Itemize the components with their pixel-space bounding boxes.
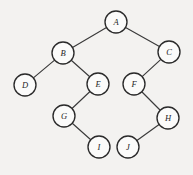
tree-node-a[interactable]: A	[105, 11, 127, 33]
tree-edge-a-b	[73, 28, 107, 48]
tree-node-j[interactable]: J	[117, 136, 139, 158]
tree-edge-e-g	[72, 92, 90, 109]
tree-edge-b-d	[33, 60, 54, 78]
tree-node-circle-i	[88, 136, 110, 158]
tree-node-b[interactable]: B	[52, 42, 74, 64]
tree-node-f[interactable]: F	[123, 73, 145, 95]
tree-node-circle-g	[53, 105, 75, 127]
tree-edge-b-e	[71, 60, 90, 76]
tree-node-c[interactable]: C	[158, 41, 180, 63]
tree-node-circle-d	[14, 74, 36, 96]
tree-node-circle-c	[158, 41, 180, 63]
tree-node-circle-j	[117, 136, 139, 158]
tree-node-g[interactable]: G	[53, 105, 75, 127]
tree-node-circle-h	[157, 107, 179, 129]
tree-diagram-canvas: ABCDEFGHIJ	[0, 0, 193, 175]
tree-edge-f-h	[142, 92, 160, 110]
tree-edge-a-c	[126, 27, 160, 46]
tree-node-circle-e	[87, 73, 109, 95]
tree-node-d[interactable]: D	[14, 74, 36, 96]
tree-node-circle-a	[105, 11, 127, 33]
tree-node-e[interactable]: E	[87, 73, 109, 95]
binary-tree-figure: ABCDEFGHIJ	[0, 0, 193, 175]
tree-edge-g-i	[72, 123, 91, 139]
tree-edge-h-j	[137, 124, 159, 140]
tree-node-h[interactable]: H	[157, 107, 179, 129]
tree-node-i[interactable]: I	[88, 136, 110, 158]
tree-node-circle-b	[52, 42, 74, 64]
tree-edge-c-f	[142, 59, 161, 76]
tree-node-circle-f	[123, 73, 145, 95]
